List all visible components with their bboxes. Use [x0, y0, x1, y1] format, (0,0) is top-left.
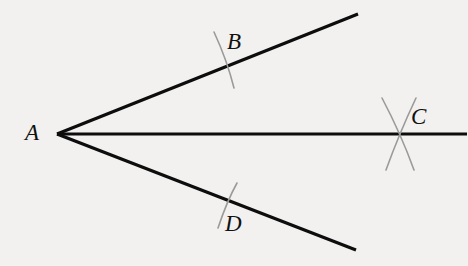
point-label-a: A [25, 121, 39, 144]
geometry-figure: A B C D [0, 0, 468, 266]
point-label-c: C [411, 105, 426, 128]
point-label-b: B [227, 30, 241, 53]
point-label-d: D [225, 212, 242, 235]
